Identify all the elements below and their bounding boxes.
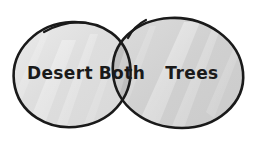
set-left-label: Desert: [27, 63, 93, 83]
venn-diagram-figure: Desert Both Trees: [0, 0, 255, 158]
set-intersection-label: Both: [99, 63, 145, 83]
set-right-label: Trees: [165, 63, 218, 83]
venn-diagram-canvas: Desert Both Trees: [0, 0, 255, 158]
